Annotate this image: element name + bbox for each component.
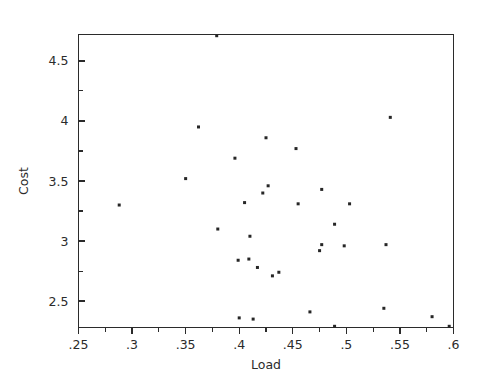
data-point	[252, 318, 255, 321]
y-tick-label-2: 3.5	[49, 174, 69, 189]
x-tick-label-5: .5	[340, 337, 352, 352]
y-tick-label-4: 4.5	[49, 53, 69, 68]
data-point	[261, 192, 264, 195]
data-point	[277, 271, 280, 274]
y-tick-label-1: 3	[61, 234, 69, 249]
data-point	[333, 223, 336, 226]
data-point	[348, 202, 351, 205]
x-tick-label-4: .45	[283, 337, 303, 352]
y-tick-label-3: 4	[61, 113, 69, 128]
data-point	[265, 136, 268, 139]
data-point	[308, 310, 311, 313]
x-tick-label-2: .35	[176, 337, 196, 352]
data-point	[233, 157, 236, 160]
data-point	[431, 315, 434, 318]
data-point	[389, 116, 392, 119]
y-axis-title: Cost	[16, 167, 31, 195]
x-axis-title: Load	[251, 357, 281, 372]
y-tick-label-0: 2.5	[49, 294, 69, 309]
x-tick-label-3: .4	[233, 337, 245, 352]
axis-labels: 2.533.544.5.25.3.35.4.45.5.55.6LoadCost	[16, 53, 460, 371]
data-point	[256, 266, 259, 269]
data-point	[248, 235, 251, 238]
data-point	[237, 259, 240, 262]
data-points	[118, 34, 451, 328]
data-point	[267, 184, 270, 187]
data-point	[320, 243, 323, 246]
data-point	[184, 177, 187, 180]
plot-frame	[79, 35, 454, 328]
plot-box	[79, 35, 454, 328]
axis-ticks	[79, 61, 454, 334]
x-tick-label-0: .25	[69, 337, 89, 352]
plot-canvas: 2.533.544.5.25.3.35.4.45.5.55.6LoadCost	[0, 0, 484, 392]
data-point	[343, 244, 346, 247]
x-tick-label-7: .6	[448, 337, 460, 352]
data-point	[382, 307, 385, 310]
data-point	[247, 258, 250, 261]
data-point	[197, 125, 200, 128]
data-point	[318, 249, 321, 252]
data-point	[385, 243, 388, 246]
data-point	[271, 274, 274, 277]
data-point	[216, 228, 219, 231]
data-point	[243, 201, 246, 204]
data-point	[238, 316, 241, 319]
data-point	[333, 325, 336, 328]
data-point	[448, 325, 451, 328]
data-point	[320, 188, 323, 191]
data-point	[297, 202, 300, 205]
data-point	[215, 34, 218, 37]
x-tick-label-6: .55	[390, 337, 410, 352]
data-point	[295, 147, 298, 150]
data-point	[118, 204, 121, 207]
scatter-plot-figure: 2.533.544.5.25.3.35.4.45.5.55.6LoadCost	[0, 0, 484, 392]
x-tick-label-1: .3	[126, 337, 138, 352]
